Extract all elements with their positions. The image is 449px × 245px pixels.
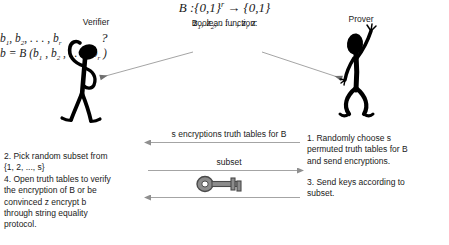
prover-step-line: 1. Randomly choose s <box>307 133 447 144</box>
prover-step-line: 3. Send keys according to <box>307 177 447 188</box>
protocol-diagram: Boolean function: B :{0,1}r → {0,1} z1, … <box>0 0 449 245</box>
prover-step-line: subset. <box>307 188 447 199</box>
message-label-encryptions: s encryptions truth tables for B <box>145 129 313 140</box>
verifier-label: Verifier <box>61 17 131 28</box>
message-label-subset: subset <box>145 157 313 168</box>
verifier-step-line: 2. Pick random subset from <box>4 151 136 162</box>
prover-steps-block-2: 3. Send keys according to subset. <box>307 177 447 200</box>
message-subset-text: subset <box>216 157 241 167</box>
verifier-step-line: {1, 2, ..., s} <box>4 162 136 173</box>
verifier-step-line: convinced z encrypt b <box>4 197 136 208</box>
verifier-steps-block: 2. Pick random subset from {1, 2, ..., s… <box>4 151 136 231</box>
prover-steps-block-1: 1. Randomly choose s permuted truth tabl… <box>307 133 447 167</box>
arrow-function-to-verifier <box>100 52 193 78</box>
verifier-step-line: through string equality <box>4 208 136 219</box>
prover-label: Prover <box>326 14 396 25</box>
verifier-figure <box>62 42 100 122</box>
key-icon <box>197 177 241 192</box>
verifier-question-glyph: ? <box>101 30 108 46</box>
verifier-step-line: 4. Open truth tables to verify <box>4 174 136 185</box>
prover-step-line: and send encryptions. <box>307 156 447 167</box>
arrow-function-to-prover <box>262 52 342 79</box>
verifier-step-line: the encryption of B or be <box>4 185 136 196</box>
verifier-step-line: protocol. <box>4 219 136 230</box>
prover-step-line: permuted truth tables for B <box>307 144 447 155</box>
message-encryptions-text: s encryptions truth tables for B <box>172 129 287 139</box>
prover-figure <box>340 24 376 116</box>
